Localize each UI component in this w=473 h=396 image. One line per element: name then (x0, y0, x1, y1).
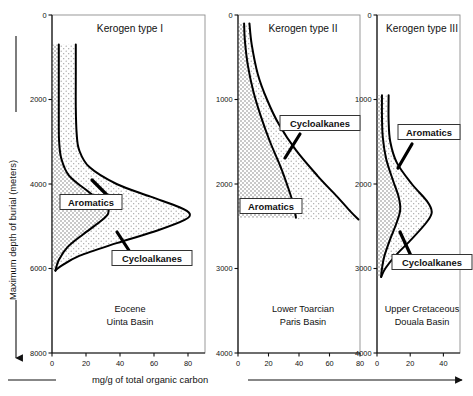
x-tick-label: 60 (325, 359, 333, 368)
aromatics-label: Aromatics (406, 127, 452, 138)
basin-label-line1: Upper Cretaceous (385, 304, 460, 314)
basin-label-line1: Lower Toarcian (272, 304, 334, 314)
x-tick-label: 80 (184, 359, 192, 368)
basin-label-line2: Uinta Basin (107, 317, 154, 327)
y-tick-label: 2000 (216, 180, 232, 189)
panel-title: Kerogen type II (268, 23, 337, 34)
y-axis-title-group: Maximum depth of burial (meters) (7, 36, 18, 358)
panel-3: 0100020003000400002040Kerogen type IIIUp… (355, 11, 472, 368)
aromatics-label: Aromatics (68, 197, 114, 208)
panel-1: 02000400060008000020406080Kerogen type I… (30, 11, 205, 368)
y-tick-label: 1000 (355, 95, 371, 104)
x-tick-label: 40 (116, 359, 124, 368)
kerogen-depth-chart: 02000400060008000020406080Kerogen type I… (0, 0, 473, 396)
basin-label-line2: Paris Basin (280, 317, 326, 327)
x-tick-label: 0 (375, 359, 379, 368)
x-tick-label: 80 (356, 359, 364, 368)
aromatics-label: Aromatics (248, 201, 294, 212)
x-axis-title-group: mg/g of total organic carbon (8, 374, 462, 385)
cycloalkanes-label: Cycloalkanes (122, 253, 182, 264)
x-tick-label: 40 (295, 359, 303, 368)
x-tick-label: 40 (439, 359, 447, 368)
y-tick-label: 2000 (355, 180, 371, 189)
x-tick-label: 60 (150, 359, 158, 368)
y-axis-title: Maximum depth of burial (meters) (7, 160, 18, 300)
panel-title: Kerogen type III (386, 23, 458, 34)
x-tick-label: 20 (82, 359, 90, 368)
x-tick-label: 20 (406, 359, 414, 368)
y-tick-label: 4000 (355, 349, 371, 358)
y-tick-label: 3000 (355, 264, 371, 273)
y-tick-label: 0 (42, 11, 46, 20)
aromatics-leader (398, 144, 412, 168)
panel-title: Kerogen type I (97, 23, 163, 34)
y-tick-label: 2000 (30, 95, 46, 104)
y-tick-label: 0 (228, 11, 232, 20)
figure-root: 02000400060008000020406080Kerogen type I… (0, 0, 473, 396)
panels-layer: 02000400060008000020406080Kerogen type I… (30, 11, 472, 368)
y-tick-label: 1000 (216, 95, 232, 104)
y-tick-label: 3000 (216, 264, 232, 273)
cycloalkanes-label: Cycloalkanes (402, 257, 462, 268)
basin-label-line2: Douala Basin (395, 317, 450, 327)
x-tick-label: 0 (236, 359, 240, 368)
cycloalkanes-label: Cycloalkanes (290, 118, 350, 129)
y-tick-label: 6000 (30, 264, 46, 273)
y-tick-label: 4000 (216, 349, 232, 358)
y-tick-label: 8000 (30, 349, 46, 358)
x-tick-label: 20 (264, 359, 272, 368)
y-tick-label: 0 (367, 11, 371, 20)
x-tick-label: 0 (50, 359, 54, 368)
basin-label-line1: Eocene (114, 304, 145, 314)
y-tick-label: 4000 (30, 180, 46, 189)
panel-2: 01000200030004000020406080Kerogen type I… (216, 11, 364, 368)
x-axis-title: mg/g of total organic carbon (92, 374, 208, 385)
